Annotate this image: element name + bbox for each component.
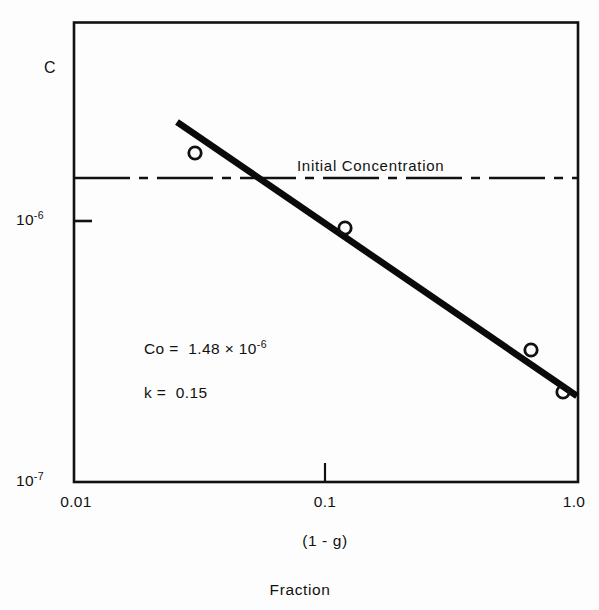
annotation-co-text: Co = 1.48 × 10 <box>144 340 257 357</box>
y-tick-label-1e-6: 10-6 <box>16 212 44 228</box>
y-tick-mantissa-lower: 10 <box>16 472 34 489</box>
y-tick-label-1e-7: 10-7 <box>16 473 44 489</box>
data-point-marker <box>525 344 537 356</box>
data-point-marker <box>339 222 351 234</box>
x-axis-label: (1 - g) <box>302 533 348 549</box>
x-tick-label-1p0: 1.0 <box>563 494 585 510</box>
annotation-co: Co = 1.48 × 10-6 <box>144 341 267 357</box>
data-point-marker <box>189 147 201 159</box>
annotation-co-exponent: -6 <box>257 338 267 350</box>
y-tick-mantissa-upper: 10 <box>16 211 34 228</box>
initial-concentration-label: Initial Concentration <box>297 158 444 173</box>
log-log-concentration-chart: C 10-6 10-7 0.01 0.1 1.0 Initial Concent… <box>0 0 599 610</box>
annotation-k: k = 0.15 <box>144 385 208 401</box>
plot-frame <box>74 23 578 483</box>
figure-caption: Fraction <box>270 582 331 598</box>
chart-canvas <box>0 0 599 610</box>
y-axis-label: C <box>44 60 56 76</box>
x-tick-label-0p1: 0.1 <box>314 494 336 510</box>
y-tick-exponent-lower: -7 <box>34 470 44 482</box>
x-tick-label-0p01: 0.01 <box>60 494 91 510</box>
y-tick-exponent-upper: -6 <box>34 209 44 221</box>
